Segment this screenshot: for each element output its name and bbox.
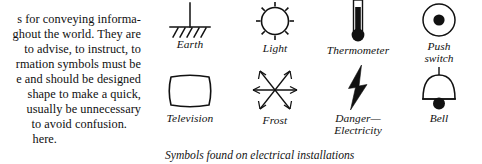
body-line-2: ghout the world. They are [13,28,141,40]
thermometer-icon [341,0,375,44]
body-line-6: shape to make a quick, [28,88,141,100]
body-line-9: here. [33,133,57,145]
symbol-label-bell: Bell [430,112,449,124]
figure-caption-text: Symbols found on electrical installation… [165,150,354,162]
symbol-label-earth: Earth [177,38,203,50]
body-line-5: e and should be designed [16,73,141,85]
body-text-column: s for conveying informa- ghout the world… [0,0,145,164]
lightning-bolt-icon [338,64,378,112]
earth-ground-icon [159,2,221,38]
symbol-label-push-switch-line2: switch [424,52,453,64]
scanned-book-page: s for conveying informa- ghout the world… [0,0,482,164]
symbol-cell-light: Light [235,0,315,54]
symbol-cell-television: Television [150,70,230,124]
symbol-cell-earth: Earth [150,2,230,50]
symbol-figure: Earth L [145,0,482,164]
body-line-4: rmation symbols must be [16,58,141,70]
symbol-cell-thermometer: Thermometer [315,0,401,56]
frost-snowflake-icon [247,66,303,114]
symbol-cell-danger-electricity: Danger— Electricity [315,64,401,137]
symbol-label-frost: Frost [263,114,288,126]
symbol-label-television: Television [167,112,214,124]
symbol-label-danger-line2: Electricity [334,124,381,136]
symbol-label-danger: Danger— [335,112,381,124]
push-switch-icon [417,0,461,40]
clipped-top-line [0,0,145,9]
bell-icon [415,66,463,112]
symbol-label-light: Light [263,42,288,54]
sun-light-icon [247,0,303,42]
symbol-cell-frost: Frost [235,66,315,126]
body-line-3: to advise, to instruct, to [24,43,141,55]
body-line-1: s for conveying informa- [17,13,141,25]
symbol-label-thermometer: Thermometer [327,44,389,56]
figure-caption: Symbols found on electrical installation… [145,150,482,164]
body-line-8: to avoid confusion. [31,118,127,130]
symbol-cell-push-switch: Push switch [399,0,479,65]
television-screen-icon [163,70,217,112]
symbol-cell-bell: Bell [399,66,479,124]
body-line-7: usually be unnecessary [27,103,141,115]
symbol-label-push-switch: Push [427,40,450,52]
